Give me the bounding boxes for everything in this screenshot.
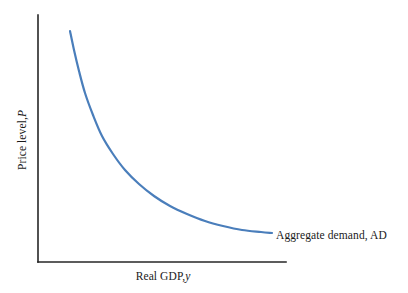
y-axis-label-variable: P <box>16 110 28 117</box>
x-axis-label-variable: y <box>185 270 190 282</box>
x-axis-label-text: Real GDP, <box>136 270 185 282</box>
curve-series-label: Aggregate demand, AD <box>276 229 387 241</box>
y-axis-label: Price level,P <box>16 95 28 185</box>
x-axis-label: Real GDP,y <box>128 270 198 282</box>
aggregate-demand-curve <box>70 31 272 233</box>
chart-canvas <box>0 0 408 293</box>
y-axis-label-text: Price level, <box>16 117 28 170</box>
aggregate-demand-figure: Price level,P Real GDP,y Aggregate deman… <box>0 0 408 293</box>
curve-series-label-text: Aggregate demand, AD <box>276 229 387 241</box>
